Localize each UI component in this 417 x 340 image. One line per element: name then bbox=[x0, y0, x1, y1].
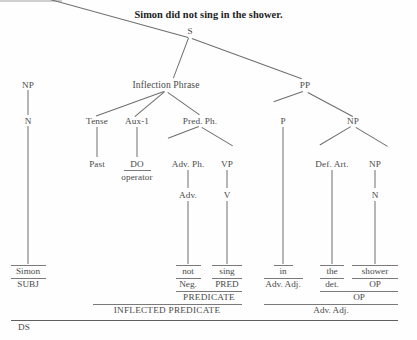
function-ds: DS bbox=[18, 322, 30, 332]
node-inflection-phrase: Inflection Phrase bbox=[133, 80, 200, 90]
diagram-title: Simon did not sing in the shower. bbox=[134, 9, 282, 20]
edge-adv-not bbox=[188, 201, 189, 264]
node-pred-ph: Pred. Ph. bbox=[183, 116, 217, 126]
node-def-art: Def. Art. bbox=[315, 159, 348, 169]
terminal-sing: sing bbox=[219, 266, 234, 276]
edge-aux1-do bbox=[137, 127, 138, 157]
node-past: Past bbox=[89, 159, 105, 169]
edge-pp-npobject bbox=[308, 92, 354, 117]
terminal-not: not bbox=[182, 266, 194, 276]
syntax-tree-diagram: Simon did not sing in the shower. S NP N… bbox=[0, 0, 417, 340]
edge-n-simon bbox=[28, 126, 29, 264]
edge-npobject-defart bbox=[319, 126, 351, 145]
function-op-shower: OP bbox=[369, 279, 381, 289]
node-n-object: N bbox=[372, 190, 379, 200]
node-pp: PP bbox=[300, 80, 310, 90]
function-op-phrase: OP bbox=[353, 292, 365, 302]
terminal-simon: Simon bbox=[16, 266, 40, 276]
edge-ip-tense bbox=[96, 91, 164, 116]
node-adv-ph: Adv. Ph. bbox=[172, 159, 205, 169]
node-do: DO bbox=[130, 159, 143, 169]
terminal-the: the bbox=[326, 266, 337, 276]
node-np-subject: NP bbox=[22, 80, 34, 90]
edge-npobject-npinner bbox=[355, 127, 387, 147]
node-tense: Tense bbox=[86, 116, 108, 126]
edge-p-in bbox=[283, 127, 284, 264]
node-operator: operator bbox=[121, 172, 152, 182]
function-adv-adj-in: Adv. Adj. bbox=[265, 279, 300, 289]
edge-pp-p bbox=[274, 91, 303, 102]
edge-s-inflection bbox=[173, 38, 189, 78]
function-neg: Neg. bbox=[179, 279, 197, 289]
edge-vp-v bbox=[227, 170, 228, 188]
node-aux1: Aux-1 bbox=[125, 116, 149, 126]
node-adv: Adv. bbox=[179, 190, 197, 200]
edge-ip-predph bbox=[167, 92, 200, 116]
function-predicate: PREDICATE bbox=[183, 292, 235, 302]
terminal-in: in bbox=[279, 266, 286, 276]
function-det: det. bbox=[325, 279, 339, 289]
terminal-shower: shower bbox=[362, 266, 389, 276]
node-n-subject: N bbox=[25, 116, 32, 126]
edge-predph-advph bbox=[168, 126, 199, 139]
function-pred: PRED bbox=[215, 279, 239, 289]
node-s: S bbox=[187, 26, 192, 36]
node-np-inner: NP bbox=[369, 159, 381, 169]
edge-predph-vp bbox=[201, 127, 233, 146]
edge-s-pp bbox=[192, 38, 302, 79]
edge-defart-the bbox=[332, 170, 333, 264]
edge-tense-past bbox=[97, 127, 98, 157]
function-subj: SUBJ bbox=[17, 279, 38, 289]
edge-n-shower bbox=[375, 201, 376, 264]
function-inflected-predicate: INFLECTED PREDICATE bbox=[114, 305, 221, 315]
do-operator-rule bbox=[124, 170, 151, 171]
node-v: V bbox=[224, 190, 231, 200]
edge-np-n bbox=[28, 90, 29, 115]
node-np-object: NP bbox=[347, 116, 359, 126]
edge-v-sing bbox=[227, 201, 228, 264]
edge-advph-adv bbox=[188, 170, 189, 188]
edge-npinner-n bbox=[375, 170, 376, 188]
node-vp: VP bbox=[221, 159, 233, 169]
rule-ds bbox=[11, 320, 398, 321]
node-p: P bbox=[280, 116, 285, 126]
function-adv-adj-phrase: Adv. Adj. bbox=[313, 305, 348, 315]
